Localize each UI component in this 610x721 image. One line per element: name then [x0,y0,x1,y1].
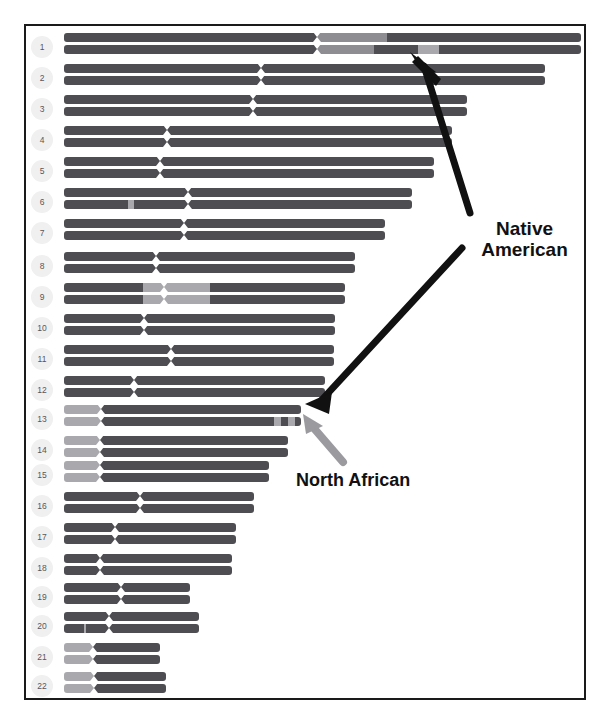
ancestry-segment [64,283,143,292]
centromere-notch [317,32,321,42]
chromosome-row[interactable]: 11 [26,345,584,373]
chromosome-row[interactable]: 12 [26,376,584,404]
ancestry-segment [93,655,160,664]
chromosome-haplotype-bar[interactable] [64,473,269,482]
ancestry-segment [64,326,335,335]
centromere-notch [160,168,164,178]
ancestry-segment [64,33,317,42]
chromosome-haplotype-bar[interactable] [64,107,467,116]
centromere-notch [100,553,104,563]
chromosome-haplotype-bar[interactable] [64,95,467,104]
chromosome-row[interactable]: 2 [26,64,584,92]
chromosome-row[interactable]: 14 [26,436,584,464]
ancestry-segment [64,436,100,445]
centromere-notch [93,654,97,664]
chromosome-number-badge: 1 [31,36,53,58]
chromosome-haplotype-bar[interactable] [64,376,325,385]
chromosome-haplotype-bar[interactable] [64,157,434,166]
chromosome-number-badge: 17 [31,526,53,548]
chromosome-haplotype-bar[interactable] [64,624,199,633]
chromosome-haplotype-bar[interactable] [64,188,412,197]
ancestry-segment [94,684,166,693]
chromosome-row[interactable]: 16 [26,492,584,520]
chromosome-row[interactable]: 9 [26,283,584,311]
chromosome-haplotype-bar[interactable] [64,169,434,178]
ancestry-segment [64,219,385,228]
ancestry-segment [64,554,232,563]
centromere-notch [100,435,104,445]
chromosome-row[interactable]: 10 [26,314,584,342]
chromosome-row[interactable]: 22 [26,672,584,700]
chromosome-number-badge: 11 [31,348,53,370]
chromosome-row[interactable]: 5 [26,157,584,185]
chromosome-haplotype-bar[interactable] [64,357,334,366]
ancestry-segment [281,417,288,426]
chromosome-haplotype-bar[interactable] [64,612,199,621]
chromosome-haplotype-bar[interactable] [64,252,355,261]
centromere-notch [253,106,257,116]
chromosome-haplotype-bar[interactable] [64,126,452,135]
chromosome-number-badge: 7 [31,222,53,244]
ancestry-segment [64,504,254,513]
chromosome-haplotype-bar[interactable] [64,388,325,397]
chromosome-haplotype-bar[interactable] [64,492,254,501]
chromosome-number-badge: 20 [31,615,53,637]
ancestry-segment [64,157,434,166]
centromere-notch [100,472,104,482]
chromosome-haplotype-bar[interactable] [64,523,236,532]
centromere-notch [171,344,175,354]
chromosome-haplotype-bar[interactable] [64,45,581,54]
chromosome-haplotype-bar[interactable] [64,219,385,228]
ancestry-segment [64,200,128,209]
chromosome-number-badge: 8 [31,255,53,277]
chromosome-haplotype-bar[interactable] [64,295,345,304]
ancestry-segment [317,45,374,54]
centromere-notch [140,491,144,501]
chromosome-row[interactable]: 3 [26,95,584,123]
chromosome-row[interactable]: 18 [26,554,584,582]
ancestry-segment [317,33,387,42]
ancestry-segment [64,461,100,470]
ancestry-segment [101,417,274,426]
chromosome-haplotype-bar[interactable] [64,461,269,470]
centromere-notch [109,623,113,633]
chromosome-haplotype-bar[interactable] [64,76,545,85]
chromosome-haplotype-bar[interactable] [64,326,335,335]
chromosome-haplotype-bar[interactable] [64,231,385,240]
ancestry-segment [64,138,452,147]
chromosome-number-badge: 4 [31,129,53,151]
chromosome-haplotype-bar[interactable] [64,535,236,544]
chromosome-number-badge: 5 [31,160,53,182]
chromosome-number-badge: 19 [31,586,53,608]
chromosome-haplotype-bar[interactable] [64,138,452,147]
chromosome-row[interactable]: 1 [26,33,584,61]
chromosome-haplotype-bar[interactable] [64,554,232,563]
chromosome-haplotype-bar[interactable] [64,595,190,604]
chromosome-row[interactable]: 6 [26,188,584,216]
ancestry-segment [295,417,301,426]
chromosome-haplotype-bar[interactable] [64,655,160,664]
chromosome-row[interactable]: 17 [26,523,584,551]
centromere-notch [144,313,148,323]
chromosome-row[interactable]: 4 [26,126,584,154]
chromosome-haplotype-bar[interactable] [64,566,232,575]
ancestry-segment [387,33,581,42]
chromosome-haplotype-bar[interactable] [64,33,581,42]
chromosome-haplotype-bar[interactable] [64,583,190,592]
chromosome-haplotype-bar[interactable] [64,283,345,292]
chromosome-haplotype-bar[interactable] [64,643,160,652]
chromosome-row[interactable]: 21 [26,643,584,671]
chromosome-haplotype-bar[interactable] [64,345,334,354]
chromosome-haplotype-bar[interactable] [64,504,254,513]
chromosome-haplotype-bar[interactable] [64,264,355,273]
chromosome-row[interactable]: 13 [26,405,584,433]
chromosome-haplotype-bar[interactable] [64,200,412,209]
ancestry-segment [64,405,101,414]
chromosome-haplotype-bar[interactable] [64,672,166,681]
chromosome-haplotype-bar[interactable] [64,684,166,693]
chromosome-row[interactable]: 20 [26,612,584,640]
chromosome-haplotype-bar[interactable] [64,64,545,73]
chromosome-row[interactable]: 19 [26,583,584,611]
chromosome-haplotype-bar[interactable] [64,314,335,323]
ancestry-segment [86,624,199,633]
